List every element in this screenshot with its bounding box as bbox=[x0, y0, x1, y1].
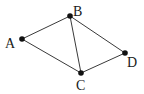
edges bbox=[22, 16, 125, 73]
node-c bbox=[78, 70, 84, 76]
node-label-d: D bbox=[127, 55, 137, 70]
node-label-b: B bbox=[73, 4, 82, 19]
edge-a-b bbox=[22, 16, 70, 39]
edge-c-d bbox=[81, 53, 125, 73]
node-label-c: C bbox=[76, 78, 85, 93]
edge-b-d bbox=[70, 16, 125, 53]
graph-diagram: A B C D bbox=[0, 0, 144, 94]
edge-b-c bbox=[70, 16, 81, 73]
edge-a-c bbox=[22, 39, 81, 73]
node-b bbox=[67, 13, 73, 19]
node-a bbox=[19, 36, 25, 42]
node-label-a: A bbox=[5, 36, 16, 51]
